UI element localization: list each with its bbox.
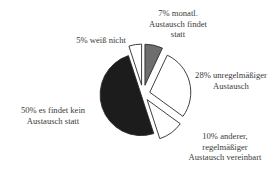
- label-other: 10% anderer, regelmäßiger Austausch vere…: [180, 131, 270, 163]
- label-line: Austausch vereinbart: [180, 152, 270, 163]
- label-unknown: 5% weiß nicht: [66, 35, 136, 46]
- label-line: Austausch statt: [12, 116, 94, 127]
- label-line: Austausch: [186, 81, 276, 92]
- label-monthly: 7% monatl. Austausch findet statt: [143, 8, 213, 40]
- label-none: 50% es findet kein Austausch statt: [12, 105, 94, 126]
- label-line: 28% unregelmäßiger: [186, 70, 276, 81]
- label-line: 10% anderer,: [180, 131, 270, 142]
- label-line: 5% weiß nicht: [66, 35, 136, 46]
- label-line: Austausch findet: [143, 19, 213, 30]
- label-line: regelmäßiger: [180, 142, 270, 153]
- label-line: 50% es findet kein: [12, 105, 94, 116]
- label-line: 7% monatl.: [143, 8, 213, 19]
- label-irregular: 28% unregelmäßiger Austausch: [186, 70, 276, 91]
- label-line: statt: [143, 29, 213, 40]
- pie-slices: [100, 44, 191, 139]
